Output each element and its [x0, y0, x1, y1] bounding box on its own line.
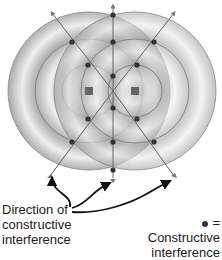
- right-source-icon: [131, 87, 139, 95]
- direction-label-line3: interference: [2, 232, 71, 247]
- legend: = Constructive interference: [134, 215, 220, 260]
- direction-label: Direction of constructive interference: [2, 202, 71, 247]
- legend-dot-icon: [202, 221, 208, 227]
- bottom-arrowheads: [47, 173, 177, 183]
- legend-text-line1: = Constructive: [148, 215, 220, 245]
- direction-label-line1: Direction of: [2, 202, 71, 217]
- legend-text-line2: interference: [134, 245, 220, 260]
- left-source-icon: [85, 87, 93, 95]
- direction-label-line2: constructive: [2, 217, 71, 232]
